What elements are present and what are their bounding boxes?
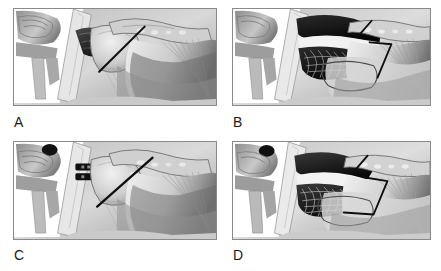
panel-a-illustration xyxy=(14,9,216,105)
panel-b xyxy=(232,8,431,106)
panel-label-c: C xyxy=(14,248,24,262)
panel-label-a: A xyxy=(14,115,24,129)
panel-d-illustration xyxy=(233,142,430,239)
figure-container: A xyxy=(0,0,441,271)
panel-a xyxy=(13,8,217,106)
panel-c xyxy=(13,141,217,240)
panel-c-illustration xyxy=(14,142,216,239)
panel-b-illustration xyxy=(233,9,430,105)
panel-label-b: B xyxy=(233,115,243,129)
panel-d xyxy=(232,141,431,240)
panel-label-d: D xyxy=(233,248,243,262)
panel-d-dark-round-structure xyxy=(259,145,275,157)
